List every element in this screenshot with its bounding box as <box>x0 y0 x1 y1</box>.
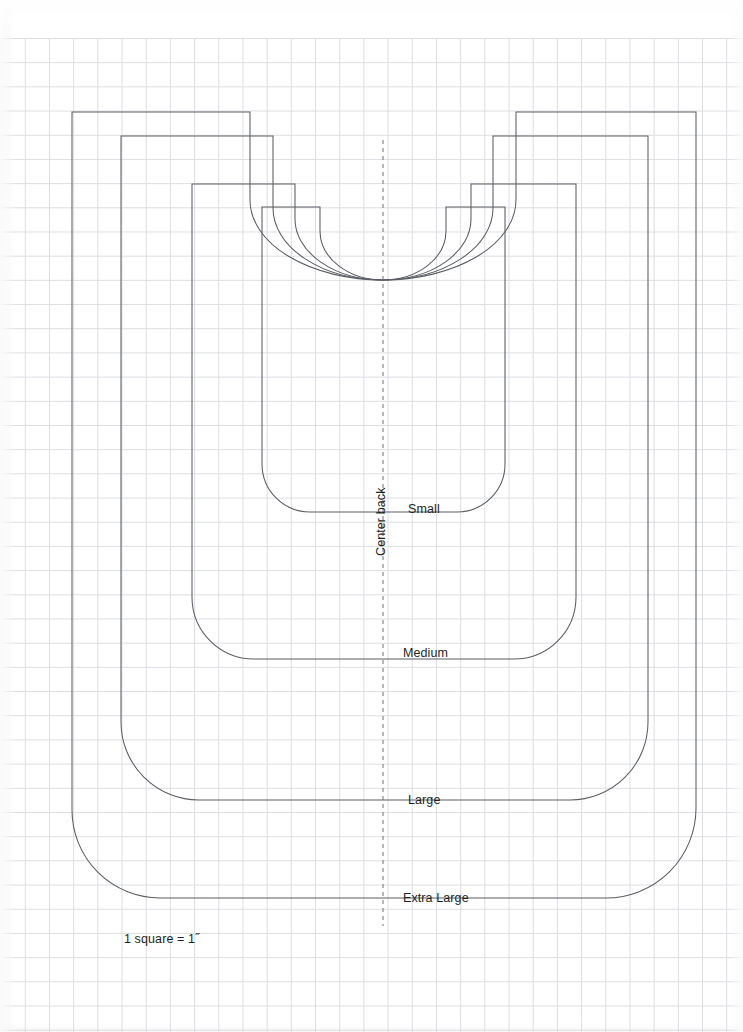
scale-note: 1 square = 1˝ <box>124 932 199 946</box>
pattern-sheet-page: Small Medium Large Extra Large Center ba… <box>0 0 743 1032</box>
size-label-medium: Medium <box>403 646 448 660</box>
pattern-outline-large <box>121 136 648 800</box>
pattern-drawing <box>0 0 743 1032</box>
center-back-label: Center back <box>374 488 388 557</box>
pattern-outline-medium <box>192 184 576 659</box>
size-label-large: Large <box>408 793 440 807</box>
size-label-extra-large: Extra Large <box>403 891 469 905</box>
size-label-small: Small <box>408 502 440 516</box>
